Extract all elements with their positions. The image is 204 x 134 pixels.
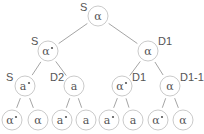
tree-edge: [114, 98, 118, 108]
node-symbol: a: [83, 114, 90, 127]
node-label: D2: [50, 71, 64, 83]
node-label: S: [6, 71, 13, 83]
node-symbol: α: [179, 114, 187, 127]
tree-edge: [17, 98, 21, 108]
tree-node: a: [99, 110, 119, 130]
tree-node: aD2: [50, 71, 84, 96]
tree-node: α: [173, 110, 193, 130]
node-symbol: α: [116, 80, 124, 93]
tree-edge: [126, 98, 129, 107]
tree-node: a: [123, 110, 143, 130]
tree-node: a: [76, 110, 96, 130]
tree-edge: [78, 98, 81, 107]
node-label: S: [80, 1, 87, 13]
binary-tree-diagram: αSαSαD1aSaD2αD1αD1-1ααaaaaαα: [0, 0, 204, 134]
tree-edges: [17, 23, 179, 107]
tree-edge: [162, 98, 165, 107]
tree-node: αD1: [138, 35, 172, 61]
star-marker-icon: [28, 82, 30, 84]
star-marker-icon: [51, 47, 53, 49]
node-symbol: α: [152, 114, 160, 127]
tree-edge: [59, 23, 88, 43]
node-symbol: α: [144, 45, 152, 58]
star-marker-icon: [125, 82, 127, 84]
node-label: D1: [158, 35, 172, 47]
node-symbol: α: [166, 80, 174, 93]
tree-node: α: [2, 110, 22, 130]
tree-node: α: [28, 110, 48, 130]
node-symbol: α: [94, 10, 102, 23]
tree-nodes: αSαSαD1aSaD2αD1αD1-1ααaaaaαα: [2, 1, 204, 130]
tree-edge: [109, 23, 138, 43]
tree-edge: [30, 98, 34, 108]
node-symbol: α: [42, 45, 50, 58]
tree-edge: [32, 62, 41, 75]
tree-node: a: [52, 110, 72, 130]
star-marker-icon: [161, 116, 163, 118]
tree-edge: [155, 62, 163, 75]
tree-node: αS: [31, 35, 58, 61]
node-label: D1-1: [180, 71, 204, 83]
tree-edge: [175, 98, 179, 108]
tree-node: aS: [6, 71, 35, 96]
star-marker-icon: [65, 116, 67, 118]
star-marker-icon: [15, 116, 17, 118]
star-marker-icon: [112, 116, 114, 118]
node-label: D1: [132, 71, 146, 83]
tree-node: α: [148, 110, 168, 130]
node-symbol: a: [130, 114, 137, 127]
node-symbol: a: [20, 80, 27, 93]
node-symbol: α: [34, 114, 42, 127]
node-label: S: [31, 35, 38, 47]
tree-node: αD1: [112, 71, 146, 96]
node-symbol: α: [6, 114, 14, 127]
tree-node: αD1-1: [160, 71, 204, 96]
tree-node: αS: [80, 1, 108, 26]
node-symbol: a: [104, 114, 111, 127]
node-symbol: a: [57, 114, 64, 127]
node-symbol: a: [71, 80, 78, 93]
tree-edge: [66, 98, 69, 107]
